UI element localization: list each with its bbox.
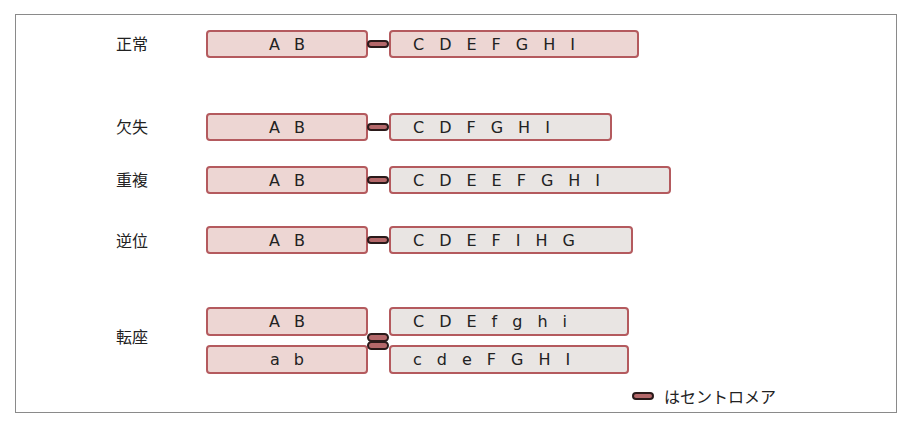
gene: b: [294, 350, 304, 369]
gene: H: [518, 118, 530, 137]
gene: G: [516, 35, 528, 54]
gene: H: [538, 350, 550, 369]
gene: D: [439, 312, 451, 331]
centromere-icon: [367, 40, 389, 48]
gene: E: [467, 312, 477, 331]
gene: f: [492, 312, 498, 331]
row-label-translocation: 転座: [116, 328, 148, 348]
centromere-icon: [367, 341, 389, 350]
gene: A: [269, 231, 280, 250]
centromere-icon: [367, 176, 389, 184]
gene: D: [439, 118, 451, 137]
gene: d: [437, 350, 447, 369]
gene: G: [563, 231, 575, 250]
gene: C: [413, 312, 424, 331]
centromere-icon: [632, 392, 654, 400]
gene: h: [537, 312, 547, 331]
gene: F: [467, 118, 476, 137]
gene: I: [545, 118, 550, 137]
p-arm-inversion: A B: [206, 226, 368, 254]
gene: B: [294, 231, 305, 250]
gene: H: [536, 231, 548, 250]
gene: G: [541, 171, 553, 190]
gene: A: [269, 312, 280, 331]
gene: F: [492, 231, 501, 250]
gene: B: [294, 171, 305, 190]
q-arm-translocation-bottom: c d e F G H I: [389, 345, 629, 374]
gene: I: [565, 350, 570, 369]
gene: H: [568, 171, 580, 190]
q-arm-inversion: C D E F I H G: [389, 226, 633, 254]
gene: C: [413, 231, 424, 250]
gene: I: [595, 171, 600, 190]
gene: G: [511, 350, 523, 369]
q-arm-translocation-top: C D E f g h i: [389, 307, 629, 336]
gene: C: [413, 171, 424, 190]
row-label-deletion: 欠失: [116, 118, 148, 138]
gene: a: [270, 350, 280, 369]
gene: B: [294, 118, 305, 137]
gene: D: [439, 35, 451, 54]
gene: A: [269, 171, 280, 190]
gene: I: [570, 35, 575, 54]
gene: e: [462, 350, 472, 369]
gene: A: [269, 35, 280, 54]
gene: A: [269, 118, 280, 137]
gene: E: [492, 171, 502, 190]
gene: D: [439, 171, 451, 190]
row-label-normal: 正常: [116, 35, 148, 55]
gene: i: [563, 312, 567, 331]
gene: H: [543, 35, 555, 54]
centromere-icon: [367, 236, 389, 244]
legend-text: はセントロメア: [664, 384, 776, 408]
row-label-inversion: 逆位: [116, 232, 148, 252]
gene: B: [294, 35, 305, 54]
gene: c: [413, 350, 422, 369]
gene: D: [439, 231, 451, 250]
gene: C: [413, 35, 424, 54]
gene: C: [413, 118, 424, 137]
q-arm-deletion: C D F G H I: [389, 113, 612, 141]
legend: はセントロメア: [632, 384, 776, 408]
p-arm-translocation-top: A B: [206, 307, 368, 336]
centromere-icon: [367, 123, 389, 131]
gene: E: [467, 171, 477, 190]
gene: g: [512, 312, 522, 331]
p-arm-duplication: A B: [206, 166, 368, 194]
gene: F: [517, 171, 526, 190]
q-arm-duplication: C D E E F G H I: [389, 166, 671, 194]
gene: F: [492, 35, 501, 54]
gene: F: [487, 350, 496, 369]
gene: I: [516, 231, 521, 250]
q-arm-normal: C D E F G H I: [389, 30, 639, 58]
row-label-duplication: 重複: [116, 171, 148, 191]
gene: E: [467, 35, 477, 54]
p-arm-deletion: A B: [206, 113, 368, 141]
gene: G: [491, 118, 503, 137]
p-arm-translocation-bottom: a b: [206, 345, 368, 374]
gene: E: [467, 231, 477, 250]
p-arm-normal: A B: [206, 30, 368, 58]
gene: B: [294, 312, 305, 331]
